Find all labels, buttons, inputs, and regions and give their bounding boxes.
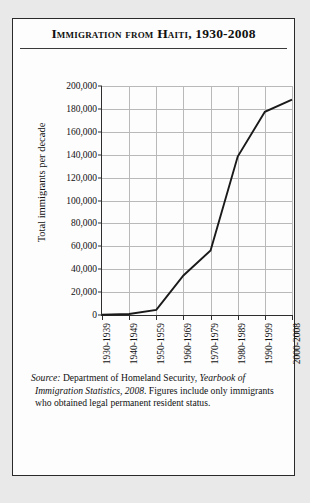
y-tick-label: 80,000 — [71, 218, 97, 228]
x-tick-mark — [183, 315, 184, 320]
x-tick-mark — [129, 315, 130, 320]
x-tick-label: 1960-1969 — [183, 323, 193, 364]
x-tick-label: 1930-1939 — [102, 323, 112, 364]
x-tick-mark — [156, 315, 157, 320]
x-tick-label: 2000-2008 — [292, 323, 302, 364]
y-tick-label: 40,000 — [71, 264, 97, 274]
x-tick-mark — [292, 315, 293, 320]
x-tick-label: 1990-1999 — [264, 323, 274, 364]
source-text-first: Department of Homeland Security, — [60, 372, 199, 383]
source-label: Source: — [31, 372, 60, 383]
y-tick-label: 60,000 — [71, 241, 97, 251]
plot-area: 020,00040,00060,00080,000100,000120,0001… — [101, 86, 292, 316]
x-tick-mark — [265, 315, 266, 320]
x-tick-label: 1950-1959 — [156, 323, 166, 364]
data-series-line — [102, 86, 292, 315]
y-axis-title: Total immigrants per decade — [36, 83, 47, 283]
x-tick-label: 1970-1979 — [210, 323, 220, 364]
y-tick-label: 20,000 — [71, 287, 97, 297]
y-tick-label: 140,000 — [66, 150, 97, 160]
plot-area-wrapper: Total immigrants per decade 020,00040,00… — [13, 49, 296, 379]
y-tick-label: 100,000 — [66, 196, 97, 206]
x-tick-mark — [102, 315, 103, 320]
y-tick-label: 200,000 — [66, 81, 97, 91]
y-tick-label: 120,000 — [66, 173, 97, 183]
chart-title: Immigration from Haiti, 1930-2008 — [13, 19, 294, 48]
x-tick-label: 1980-1989 — [237, 323, 247, 364]
x-tick-label: 1940-1949 — [129, 323, 139, 364]
y-tick-label: 160,000 — [66, 127, 97, 137]
y-tick-label: 180,000 — [66, 104, 97, 114]
gridline-vertical — [292, 86, 293, 315]
x-tick-mark — [238, 315, 239, 320]
source-note: Source: Department of Homeland Security,… — [13, 372, 296, 410]
y-tick-label: 0 — [92, 310, 97, 320]
x-tick-mark — [211, 315, 212, 320]
figure-panel: Immigration from Haiti, 1930-2008 Total … — [12, 18, 295, 476]
